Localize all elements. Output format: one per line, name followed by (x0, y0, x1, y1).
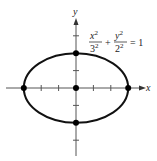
point-covertex-top (73, 50, 79, 56)
equation-label: x2 32 + y2 22 = 1 (89, 29, 143, 54)
ellipse-figure: x y x2 32 + y2 22 = 1 (0, 0, 157, 161)
point-center (73, 85, 79, 91)
point-vertex-right (125, 85, 131, 91)
point-covertex-bottom (73, 120, 79, 126)
axes: x y (6, 6, 151, 156)
point-vertex-left (21, 85, 27, 91)
y-axis-arrow-icon (74, 18, 79, 25)
equation-term2-numerator: y2 (114, 29, 123, 41)
equation-plus: + (105, 37, 111, 48)
equation-term1-numerator: x2 (89, 29, 98, 41)
equation-equals-one: = 1 (130, 37, 143, 48)
x-axis-label: x (145, 82, 151, 93)
equation-term2-denominator: 22 (115, 42, 124, 54)
equation-term1-denominator: 32 (90, 42, 99, 54)
y-axis-label: y (72, 6, 78, 17)
x-axis-arrow-icon (139, 86, 146, 91)
